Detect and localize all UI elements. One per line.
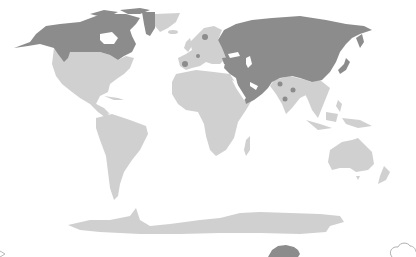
region-tasmania <box>356 176 360 180</box>
region-new-zealand <box>378 166 390 184</box>
region-kamchatka <box>356 34 364 48</box>
region-iceland <box>168 30 178 34</box>
dot-india-south <box>283 97 288 102</box>
animal-silhouette-icon <box>268 245 300 257</box>
region-madagascar <box>244 136 250 156</box>
region-australia <box>328 138 374 172</box>
region-south-america <box>96 114 148 200</box>
dot-india-east <box>291 88 296 93</box>
world-map <box>0 0 416 257</box>
region-greenland-west <box>142 12 155 36</box>
dot-iberia <box>182 61 188 67</box>
region-southeast-asia <box>300 80 330 118</box>
arrow-fragment-icon <box>0 251 5 257</box>
region-greenland-east <box>155 13 180 32</box>
region-central-america <box>88 100 110 118</box>
dot-central-europe <box>196 54 200 58</box>
region-uk <box>184 38 192 52</box>
region-japan <box>338 58 350 74</box>
region-caribbean <box>104 96 124 100</box>
region-antarctica <box>68 208 344 234</box>
dot-india-north <box>278 82 283 87</box>
decorations <box>0 243 416 257</box>
cloud-outline-icon <box>390 243 416 257</box>
dot-scandinavia <box>202 34 208 40</box>
